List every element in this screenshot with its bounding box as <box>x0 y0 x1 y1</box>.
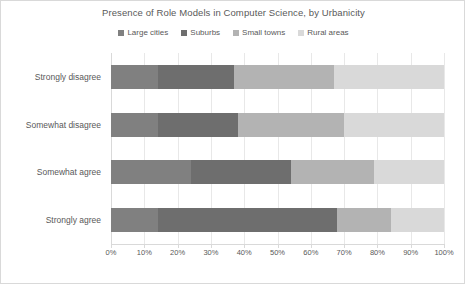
x-axis-tick-label: 20% <box>170 248 185 257</box>
bar-segment-suburbs[interactable] <box>158 65 235 89</box>
bar-segment-suburbs[interactable] <box>158 113 238 137</box>
bar-segment-large-cities[interactable] <box>111 65 158 89</box>
legend-swatch-icon <box>181 30 187 36</box>
x-axis-tick-label: 50% <box>270 248 285 257</box>
legend-item-suburbs[interactable]: Suburbs <box>181 28 220 37</box>
x-axis-labels: 0%10%20%30%40%50%60%70%80%90%100% <box>1 248 465 262</box>
x-axis-tick-label: 40% <box>237 248 252 257</box>
bar-row[interactable] <box>111 113 444 137</box>
legend-item-small-towns[interactable]: Small towns <box>233 28 285 37</box>
x-axis-tick <box>444 244 445 248</box>
x-axis-tick <box>311 244 312 248</box>
legend-item-large-cities[interactable]: Large cities <box>118 28 168 37</box>
legend-label: Rural areas <box>307 28 348 37</box>
bar-segment-rural-areas[interactable] <box>374 160 444 184</box>
legend-item-rural-areas[interactable]: Rural areas <box>298 28 348 37</box>
y-axis-label: Somewhat agree <box>37 167 101 177</box>
x-axis-tick-label: 30% <box>203 248 218 257</box>
bar-segment-rural-areas[interactable] <box>334 65 444 89</box>
x-axis-tick <box>111 244 112 248</box>
chart-container: Presence of Role Models in Computer Scie… <box>0 0 465 284</box>
bar-row[interactable] <box>111 65 444 89</box>
bar-segment-small-towns[interactable] <box>337 208 390 232</box>
bar-segment-small-towns[interactable] <box>238 113 345 137</box>
x-axis-tick <box>211 244 212 248</box>
x-axis-tick-label: 90% <box>403 248 418 257</box>
plot-area <box>111 53 444 244</box>
x-axis-tick-label: 80% <box>370 248 385 257</box>
x-axis-tick <box>144 244 145 248</box>
bar-segment-rural-areas[interactable] <box>391 208 444 232</box>
x-axis-tick-label: 70% <box>337 248 352 257</box>
x-axis-tick-label: 10% <box>137 248 152 257</box>
x-axis-tick <box>411 244 412 248</box>
bar-segment-suburbs[interactable] <box>158 208 338 232</box>
x-axis-tick <box>178 244 179 248</box>
legend-swatch-icon <box>233 30 239 36</box>
bar-row[interactable] <box>111 208 444 232</box>
y-axis-labels: Strongly disagreeSomewhat disagreeSomewh… <box>1 53 105 244</box>
chart-title: Presence of Role Models in Computer Scie… <box>1 7 465 18</box>
legend-label: Suburbs <box>190 28 220 37</box>
x-axis-tick-label: 0% <box>106 248 117 257</box>
x-axis-tick <box>278 244 279 248</box>
bar-segment-small-towns[interactable] <box>234 65 334 89</box>
bar-segment-small-towns[interactable] <box>291 160 374 184</box>
legend-swatch-icon <box>298 30 304 36</box>
bar-row[interactable] <box>111 160 444 184</box>
bar-segment-large-cities[interactable] <box>111 113 158 137</box>
x-axis-tick-label: 60% <box>303 248 318 257</box>
bar-segment-large-cities[interactable] <box>111 208 158 232</box>
gridline <box>444 53 445 244</box>
y-axis-label: Strongly agree <box>46 215 101 225</box>
legend-label: Small towns <box>242 28 285 37</box>
bar-segment-suburbs[interactable] <box>191 160 291 184</box>
bar-segment-rural-areas[interactable] <box>344 113 444 137</box>
x-axis-tick <box>344 244 345 248</box>
legend-swatch-icon <box>118 30 124 36</box>
y-axis-label: Strongly disagree <box>35 72 101 82</box>
chart-legend: Large citiesSuburbsSmall townsRural area… <box>1 28 465 37</box>
x-axis-tick <box>244 244 245 248</box>
x-axis-tick <box>377 244 378 248</box>
y-axis-label: Somewhat disagree <box>26 120 101 130</box>
bar-segment-large-cities[interactable] <box>111 160 191 184</box>
x-axis-tick-label: 100% <box>434 248 453 257</box>
legend-label: Large cities <box>127 28 168 37</box>
